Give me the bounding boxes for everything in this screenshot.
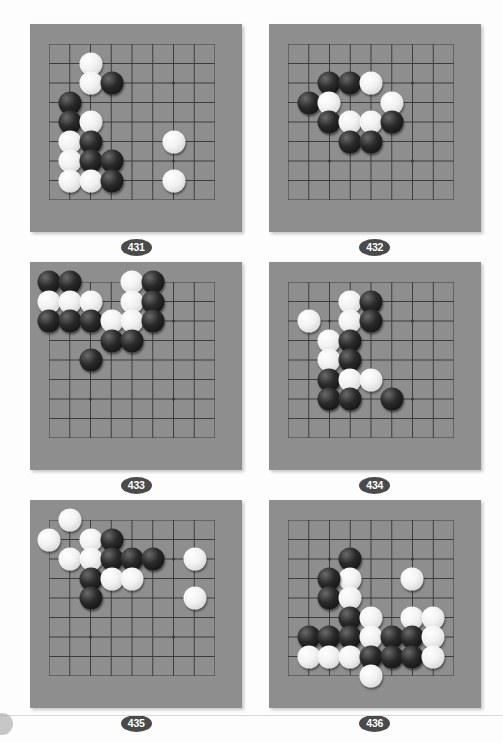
white-stone[interactable] <box>183 548 206 571</box>
problem-number-badge: 432 <box>359 239 390 256</box>
go-problem-panel: 436 <box>265 500 486 732</box>
black-stone[interactable] <box>79 349 102 372</box>
go-board-grid <box>288 520 454 676</box>
black-stone[interactable] <box>318 388 341 411</box>
white-stone[interactable] <box>79 169 102 192</box>
go-board-grid <box>288 44 454 200</box>
black-stone[interactable] <box>142 548 165 571</box>
white-stone[interactable] <box>162 130 185 153</box>
white-stone[interactable] <box>297 310 320 333</box>
go-problem-panel: 433 <box>26 262 247 494</box>
go-board[interactable] <box>30 500 242 708</box>
white-stone[interactable] <box>183 587 206 610</box>
white-stone[interactable] <box>318 645 341 668</box>
white-stone[interactable] <box>59 548 82 571</box>
white-stone[interactable] <box>38 528 61 551</box>
black-stone[interactable] <box>380 388 403 411</box>
go-board-grid <box>49 44 215 200</box>
black-stone[interactable] <box>359 130 382 153</box>
go-board[interactable] <box>269 500 481 708</box>
black-stone[interactable] <box>142 310 165 333</box>
problem-number-badge: 433 <box>121 477 152 494</box>
problem-number-badge: 434 <box>359 477 390 494</box>
black-stone[interactable] <box>100 169 123 192</box>
white-stone[interactable] <box>100 567 123 590</box>
white-stone[interactable] <box>401 567 424 590</box>
go-board[interactable] <box>269 24 481 232</box>
go-board-grid <box>288 282 454 438</box>
go-board[interactable] <box>30 262 242 470</box>
white-stone[interactable] <box>359 368 382 391</box>
black-stone[interactable] <box>318 587 341 610</box>
black-stone[interactable] <box>380 645 403 668</box>
black-stone[interactable] <box>38 310 61 333</box>
white-stone[interactable] <box>339 645 362 668</box>
white-stone[interactable] <box>297 645 320 668</box>
white-stone[interactable] <box>422 645 445 668</box>
go-problem-panel: 435 <box>26 500 247 732</box>
footer-divider <box>0 715 503 716</box>
white-stone[interactable] <box>162 169 185 192</box>
go-board-grid <box>49 282 215 438</box>
black-stone[interactable] <box>79 587 102 610</box>
black-stone[interactable] <box>318 111 341 134</box>
go-board[interactable] <box>30 24 242 232</box>
go-board-grid <box>49 520 215 676</box>
go-problem-panel: 431 <box>26 24 247 256</box>
problem-grid: 431432433434435436 <box>0 0 503 743</box>
black-stone[interactable] <box>297 91 320 114</box>
black-stone[interactable] <box>100 72 123 95</box>
page-canvas: 431432433434435436 <box>0 0 503 743</box>
black-stone[interactable] <box>121 329 144 352</box>
black-stone[interactable] <box>100 329 123 352</box>
go-problem-panel: 432 <box>265 24 486 256</box>
black-stone[interactable] <box>401 645 424 668</box>
white-stone[interactable] <box>59 509 82 532</box>
black-stone[interactable] <box>339 72 362 95</box>
black-stone[interactable] <box>339 388 362 411</box>
white-stone[interactable] <box>359 72 382 95</box>
black-stone[interactable] <box>380 111 403 134</box>
white-stone[interactable] <box>59 169 82 192</box>
go-problem-panel: 434 <box>265 262 486 494</box>
black-stone[interactable] <box>339 130 362 153</box>
problem-number-badge: 435 <box>121 715 152 732</box>
black-stone[interactable] <box>359 310 382 333</box>
problem-number-badge: 436 <box>359 715 390 732</box>
black-stone[interactable] <box>59 310 82 333</box>
white-stone[interactable] <box>79 72 102 95</box>
go-board[interactable] <box>269 262 481 470</box>
problem-number-badge: 431 <box>121 239 152 256</box>
white-stone[interactable] <box>121 567 144 590</box>
white-stone[interactable] <box>359 665 382 688</box>
black-stone[interactable] <box>79 310 102 333</box>
